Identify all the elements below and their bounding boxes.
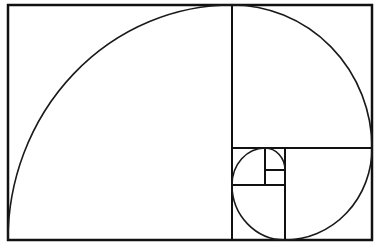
golden-spiral-diagram bbox=[0, 0, 375, 248]
background bbox=[0, 0, 375, 248]
